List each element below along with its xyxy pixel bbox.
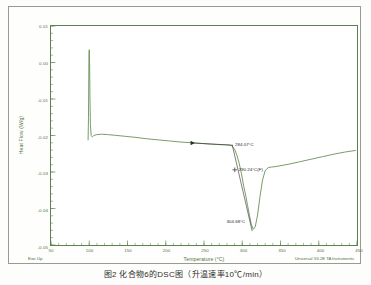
plot-svg xyxy=(51,26,357,245)
annotation-peak-temperature: 304.68°C xyxy=(227,219,246,224)
figure-caption: 图2 化合物6的DSC图（升温速率10℃/min） xyxy=(0,268,371,285)
scanned-page-background: 0.010.00-0.01-0.02-0.03-0.04-0.055010015… xyxy=(0,0,371,285)
dsc-chart: 0.010.00-0.01-0.02-0.03-0.04-0.055010015… xyxy=(9,7,362,265)
y-axis-tick-label: -0.05 xyxy=(37,245,48,250)
annotation-onset-temperature: 284.07°C xyxy=(235,142,254,147)
instrument-footer: Universal V4.2E TA Instruments xyxy=(295,256,354,261)
y-axis-tick-label: -0.01 xyxy=(37,97,48,102)
x-axis-tick-label: 300 xyxy=(240,248,247,253)
x-axis-tick-label: 250 xyxy=(201,248,208,253)
x-axis-tick-label: 350 xyxy=(278,248,285,253)
x-axis-tick-label: 400 xyxy=(317,248,324,253)
annotation-inflection-temperature: 290.24°C(F) xyxy=(238,167,263,172)
y-axis-title: Heat Flow (W/g) xyxy=(18,116,24,154)
y-axis-tick-label: -0.04 xyxy=(37,208,48,213)
exo-direction-label: Exo Up xyxy=(28,256,42,261)
x-axis-tick-label: 50 xyxy=(49,248,54,253)
figure-frame: 0.010.00-0.01-0.02-0.03-0.04-0.055010015… xyxy=(8,6,361,264)
y-axis-tick-label: -0.03 xyxy=(37,171,48,176)
x-axis-title: Temperature (°C) xyxy=(184,256,225,262)
x-axis-tick-label: 450 xyxy=(355,248,362,253)
plot-area: 0.010.00-0.01-0.02-0.03-0.04-0.055010015… xyxy=(50,25,358,246)
x-axis-tick-label: 200 xyxy=(163,248,170,253)
x-axis-tick-label: 150 xyxy=(124,248,131,253)
x-axis-tick-label: 100 xyxy=(86,248,93,253)
y-axis-tick-label: -0.02 xyxy=(37,134,48,139)
y-axis-tick-label: 0.00 xyxy=(39,60,48,65)
y-axis-tick-label: 0.01 xyxy=(39,24,48,29)
